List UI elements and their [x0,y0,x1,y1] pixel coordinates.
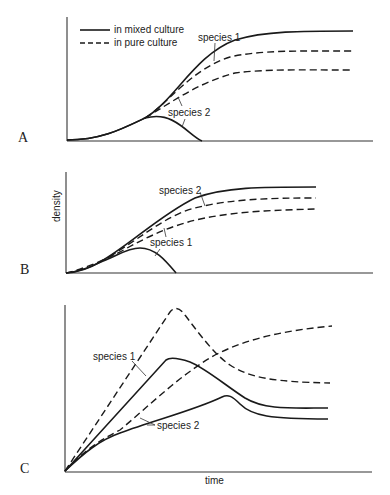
panel-c-leader-1 [132,361,146,376]
panel-b-label-species-1: species 1 [150,237,193,248]
panel-a-letter: A [18,130,29,145]
legend-dashed-label: in pure culture [114,37,178,48]
panel-c-species1-pure [65,308,330,471]
y-axis-label: density [51,190,62,222]
panel-a-leader-1 [214,43,215,61]
panel-c-label-species-2: species 2 [157,420,200,431]
panel-a: in mixed culture in pure culture species… [18,17,373,145]
panel-b-species2-pure [100,198,316,262]
panel-b-leader-1a [164,228,166,237]
panel-c-species2-pure [65,326,332,471]
panel-a-species2-mixed [67,116,202,141]
panel-b: density species 2 species 1 B [20,172,373,277]
panel-c-species1-mixed [65,358,328,471]
panel-c-letter: C [20,461,29,476]
panel-a-label-species-1: species 1 [198,32,241,43]
panel-c: species 1 species 2 time C [20,305,372,486]
competition-diagram: in mixed culture in pure culture species… [0,0,390,495]
panel-c-species2-mixed [65,396,328,471]
panel-b-label-species-2: species 2 [159,185,202,196]
panel-a-species1-mixed [67,31,353,140]
panel-b-letter: B [20,262,29,277]
panel-b-leader-2 [200,192,205,206]
legend-solid-label: in mixed culture [114,24,184,35]
panel-a-leader-2b [182,119,185,127]
panel-a-leader-2a [178,97,182,106]
panel-c-label-species-1: species 1 [93,351,136,362]
panel-a-label-species-2: species 2 [168,107,211,118]
x-axis-label: time [205,475,224,486]
